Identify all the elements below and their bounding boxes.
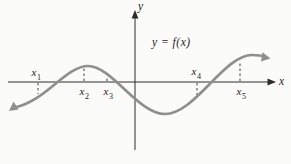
function-curve	[14, 55, 265, 114]
plot-canvas	[0, 0, 291, 164]
x-axis-arrowhead-icon	[268, 79, 277, 86]
point-label-x5: x5	[237, 86, 246, 100]
point-label-x4-sub: 4	[197, 72, 201, 81]
point-label-x3-sub: 3	[109, 92, 113, 101]
y-axis-label: y	[138, 1, 143, 13]
point-label-x3: x3	[104, 86, 113, 100]
x-axis-label: x	[279, 76, 284, 88]
function-graph-figure: y = f(x) y x x1 x2 x3 x4 x5	[0, 0, 291, 164]
point-label-x2: x2	[80, 86, 89, 100]
curve-right-arrowhead-icon	[261, 52, 271, 61]
point-label-x4: x4	[192, 66, 201, 80]
point-label-x1-sub: 1	[37, 73, 41, 82]
point-label-x2-sub: 2	[85, 92, 89, 101]
point-label-x1: x1	[32, 67, 41, 81]
point-label-x5-sub: 5	[242, 92, 246, 101]
curve-equation-label: y = f(x)	[152, 37, 191, 49]
